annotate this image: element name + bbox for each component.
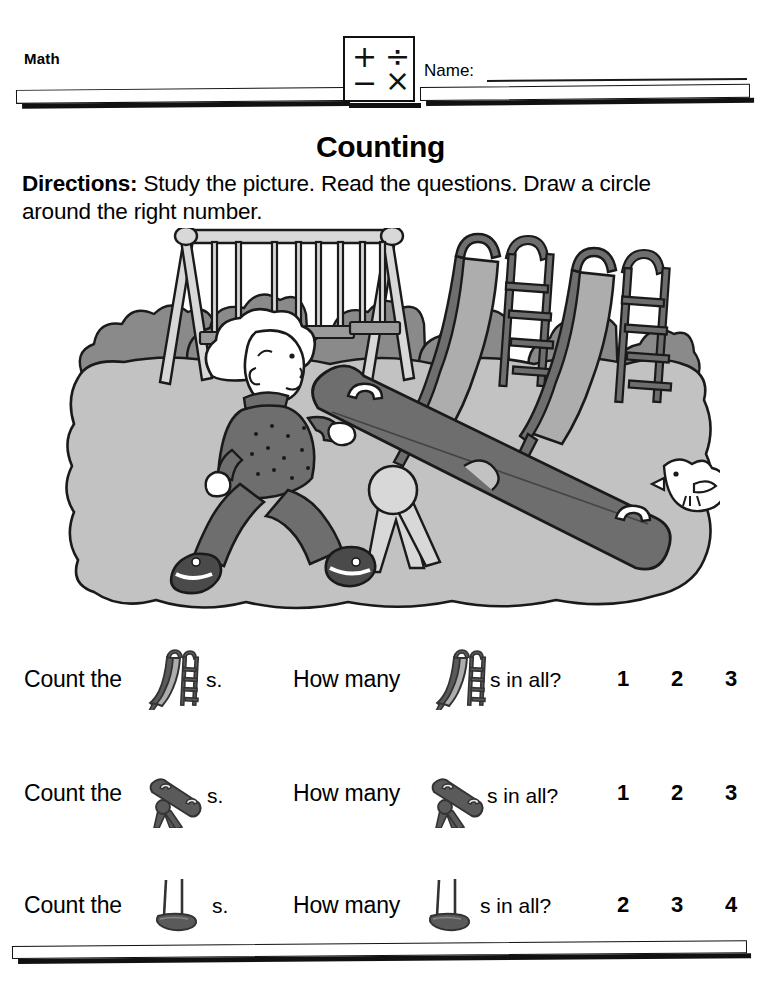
count-the-label: Count the (24, 892, 122, 919)
header-rule-left (16, 87, 346, 104)
how-many-suffix: s in all? (480, 894, 551, 918)
name-input-line[interactable] (487, 78, 747, 82)
answer-choices: 1 2 3 (612, 666, 742, 692)
how-many-label: How many (293, 780, 400, 807)
subject-label: Math (24, 50, 60, 67)
answer-choices: 1 2 3 (612, 780, 742, 806)
answer-choice[interactable]: 2 (666, 666, 688, 692)
name-label: Name: (424, 61, 474, 81)
answer-choice[interactable]: 2 (612, 892, 634, 918)
how-many-suffix: s in all? (487, 784, 558, 808)
question-row: Count the s. How many s in all? 1 2 3 (0, 762, 761, 836)
count-the-suffix: s. (212, 894, 228, 918)
answer-choice[interactable]: 3 (666, 892, 688, 918)
count-the-suffix: s. (206, 668, 222, 692)
seesaw-icon (146, 766, 208, 828)
question-row: Count the s. How many s in all? 2 3 4 (0, 874, 761, 948)
answer-choice[interactable]: 1 (612, 780, 634, 806)
directions: Directions: Study the picture. Read the … (22, 170, 662, 227)
answer-choice[interactable]: 1 (612, 666, 634, 692)
slide-icon (143, 648, 205, 710)
answer-choice[interactable]: 4 (720, 892, 742, 918)
seesaw-icon (428, 766, 490, 828)
count-the-label: Count the (24, 780, 122, 807)
answer-choices: 2 3 4 (612, 892, 742, 918)
header-rule-right (420, 84, 750, 101)
minus-icon: − (352, 68, 377, 98)
directions-label: Directions: (22, 171, 137, 196)
how-many-suffix: s in all? (490, 668, 561, 692)
math-symbols-icon: + ÷ − × (343, 36, 415, 102)
answer-choice[interactable]: 3 (720, 666, 742, 692)
how-many-label: How many (293, 666, 400, 693)
times-icon: × (385, 66, 410, 96)
how-many-label: How many (293, 892, 400, 919)
count-the-label: Count the (24, 666, 122, 693)
count-the-suffix: s. (207, 784, 223, 808)
playground-illustration (60, 228, 720, 618)
page-title: Counting (0, 130, 761, 164)
swing-icon (152, 876, 214, 938)
answer-choice[interactable]: 2 (666, 780, 688, 806)
question-row: Count the s. How many (0, 648, 761, 722)
answer-choice[interactable]: 3 (720, 780, 742, 806)
worksheet-header: Math + ÷ − × Name: (0, 0, 761, 120)
slide-icon (430, 648, 492, 710)
swing-icon (425, 876, 487, 938)
